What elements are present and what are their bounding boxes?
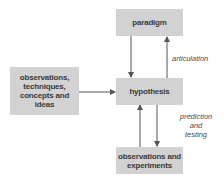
sources-line-2: techniques, [23,82,65,91]
paradigm-node: paradigm [116,9,183,36]
sources-line-3: concepts and [20,91,69,100]
articulation-text: articulation [172,54,208,63]
hypothesis-label: hypothesis [129,87,169,96]
articulation-label: articulation [172,54,222,63]
experiments-node: observations and experiments [116,147,183,174]
sources-line-4: ideas [35,100,54,109]
prediction-line-3: testing [172,130,220,139]
prediction-line-2: and [172,121,220,130]
sources-line-1: observations, [20,73,69,82]
prediction-testing-label: prediction and testing [172,112,220,139]
hypothesis-node: hypothesis [116,78,183,105]
prediction-line-1: prediction [172,112,220,121]
experiments-line-2: experiments [127,161,172,170]
paradigm-label: paradigm [132,18,166,27]
experiments-line-1: observations and [118,152,181,161]
sources-node: observations, techniques, concepts and i… [10,67,79,115]
